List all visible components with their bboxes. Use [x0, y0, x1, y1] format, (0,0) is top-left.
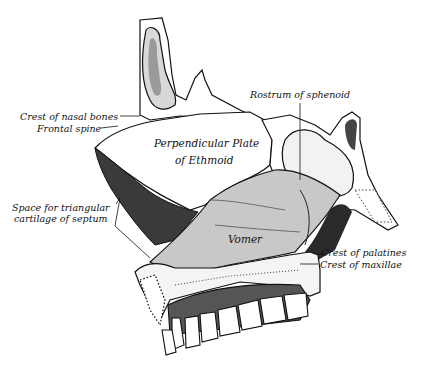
label-crest-of-nasal-bones: Crest of nasal bones — [20, 112, 118, 122]
label-perpendicular-plate-line2: of Ethmoid — [175, 154, 234, 167]
label-space-for-cartilage-line1: Space for triangular — [12, 203, 110, 213]
label-crest-of-palatines: Crest of palatines — [321, 248, 406, 258]
label-rostrum-of-sphenoid: Rostrum of sphenoid — [250, 90, 350, 100]
label-perpendicular-plate-line1: Perpendicular Plate — [154, 137, 259, 150]
anatomy-illustration — [0, 0, 423, 367]
label-crest-of-maxillae: Crest of maxillae — [320, 260, 402, 270]
nasal-septum-diagram: Crest of nasal bones Frontal spine Rostr… — [0, 0, 423, 367]
label-space-for-cartilage-line2: cartilage of septum — [14, 214, 108, 224]
label-vomer: Vomer — [228, 233, 262, 246]
label-frontal-spine: Frontal spine — [37, 124, 101, 134]
frontal-nasal-bone — [140, 18, 258, 120]
